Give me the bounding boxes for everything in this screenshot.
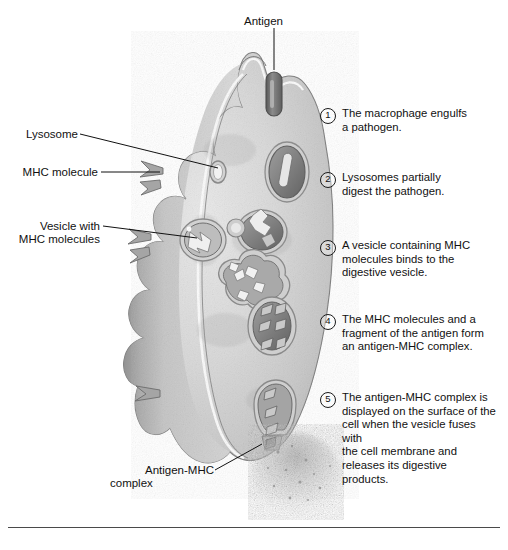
step-2-number: 2: [320, 172, 336, 188]
step-3-number: 3: [320, 240, 336, 256]
label-mhc-molecule: MHC molecule: [8, 165, 98, 179]
label-vesicle-with-mhc-line1: Vesicle with: [8, 219, 100, 233]
step-4: 4 The MHC molecules and a fragment of th…: [320, 313, 496, 354]
lysosome-vesicle: [210, 161, 226, 183]
phagosome-intact: [265, 142, 309, 202]
step-1: 1 The macrophage engulfs a pathogen.: [320, 107, 496, 134]
macrophage-cell: [124, 52, 340, 517]
step-1-number: 1: [320, 108, 336, 124]
footer-divider: [8, 527, 500, 528]
step-5-text: The antigen-MHC complex is displayed on …: [342, 391, 496, 486]
label-lysosome: Lysosome: [18, 127, 78, 141]
vesicle-with-mhc: [180, 219, 226, 261]
antigen-rod: [266, 72, 282, 116]
label-antigen: Antigen: [244, 14, 283, 28]
step-5: 5 The antigen-MHC complex is displayed o…: [320, 391, 496, 486]
label-antigen-mhc-complex-line1: Antigen-MHC: [110, 463, 214, 477]
step-3: 3 A vesicle containing MHC molecules bin…: [320, 239, 496, 280]
step-2-text: Lysosomes partially digest the pathogen.: [342, 171, 444, 198]
step-4-number: 4: [320, 314, 336, 330]
label-antigen-mhc-complex-line2: complex: [110, 476, 214, 490]
figure-canvas: Antigen Lysosome MHC molecule Vesicle wi…: [0, 0, 508, 550]
figure-caption: [0, 540, 508, 550]
step-1-text: The macrophage engulfs a pathogen.: [342, 107, 467, 134]
step-5-number: 5: [320, 392, 336, 408]
step-2: 2 Lysosomes partially digest the pathoge…: [320, 171, 496, 198]
step-3-text: A vesicle containing MHC molecules binds…: [342, 239, 470, 280]
vesicle-antigen-mhc-complexes: [248, 297, 296, 355]
label-vesicle-with-mhc-line2: MHC molecules: [8, 232, 100, 246]
step-4-text: The MHC molecules and a fragment of the …: [342, 313, 484, 354]
